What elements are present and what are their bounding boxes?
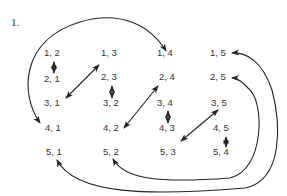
node-2-1: 2, 1 (44, 73, 60, 84)
figure-number: 1. (11, 16, 20, 28)
node-3-5: 3, 5 (211, 97, 227, 108)
node-2-4: 2, 4 (159, 71, 175, 82)
node-4-2: 4, 2 (103, 122, 119, 133)
curve-arrow-52-25 (113, 78, 259, 180)
node-labels: 1, 2 1, 3 1, 4 1, 5 2, 1 2, 3 2, 4 2, 5 … (44, 47, 229, 157)
node-2-3: 2, 3 (101, 71, 117, 82)
node-4-5: 4, 5 (213, 122, 229, 133)
node-1-2: 1, 2 (44, 47, 60, 58)
node-2-5: 2, 5 (210, 71, 226, 82)
node-4-3: 4, 3 (159, 122, 175, 133)
node-5-3: 5, 3 (160, 146, 176, 157)
swap-arrow-42-24 (124, 86, 158, 128)
node-5-2: 5, 2 (103, 146, 119, 157)
pair-transposition-diagram: 1. 1, 2 1, 3 1, 4 1, 5 2, 1 2, 3 2, 4 2,… (0, 0, 287, 196)
node-3-1: 3, 1 (44, 97, 60, 108)
arrows (28, 18, 277, 192)
node-3-2: 3, 2 (103, 97, 119, 108)
node-3-4: 3, 4 (157, 97, 173, 108)
node-1-3: 1, 3 (101, 47, 117, 58)
node-4-1: 4, 1 (45, 122, 61, 133)
node-5-4: 5, 4 (213, 146, 229, 157)
node-5-1: 5, 1 (46, 146, 62, 157)
swap-arrow-31-13 (66, 65, 99, 98)
node-1-5: 1, 5 (210, 47, 226, 58)
